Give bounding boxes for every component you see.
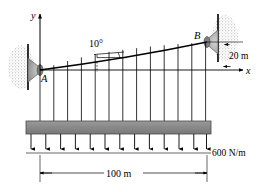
- span-dimension: 100 m: [40, 155, 207, 182]
- angle-arc: [118, 53, 120, 58]
- point-a-label: A: [40, 73, 48, 84]
- y-axis-label: y: [30, 10, 36, 21]
- point-b-label: B: [194, 30, 201, 41]
- height-dimension-label: 20 m: [229, 51, 249, 61]
- distributed-load-arrows: [31, 134, 207, 149]
- left-wall-support: [8, 44, 43, 90]
- x-axis-label: x: [245, 65, 251, 76]
- loaded-deck-beam: [26, 121, 211, 134]
- tangent-angle-annotation: 10°: [89, 38, 127, 72]
- tangent-angle-label: 10°: [89, 38, 103, 49]
- main-cable: [40, 42, 207, 70]
- distributed-load-label: 600 N/m: [212, 148, 246, 158]
- suspension-cable-diagram: 10° A B y x 20 m: [0, 0, 259, 192]
- hanger-group: [40, 42, 206, 121]
- span-dimension-label: 100 m: [106, 168, 132, 179]
